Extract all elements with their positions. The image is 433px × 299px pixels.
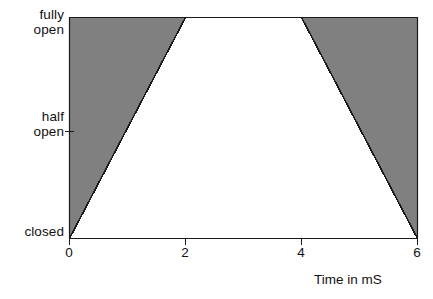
y-label-half-open: half open bbox=[0, 110, 64, 139]
x-tick-label-4: 4 bbox=[290, 246, 312, 260]
y-label-fully-open-line2: open bbox=[0, 23, 64, 38]
x-tick-label-0: 0 bbox=[58, 246, 80, 260]
x-tick-label-2: 2 bbox=[174, 246, 196, 260]
valve-timing-figure: fully open half open closed 0 2 4 6 Time… bbox=[0, 0, 433, 299]
y-label-half-open-line1: half bbox=[0, 110, 64, 125]
y-label-fully-open-line1: fully bbox=[0, 8, 64, 23]
screenshot-root: fully open half open closed 0 2 4 6 Time… bbox=[0, 0, 433, 299]
y-label-closed-line1: closed bbox=[0, 225, 64, 240]
x-tick-label-6: 6 bbox=[406, 246, 428, 260]
y-label-fully-open: fully open bbox=[0, 8, 64, 37]
y-label-half-open-line2: open bbox=[0, 125, 64, 140]
x-axis-title: Time in mS bbox=[314, 272, 382, 287]
y-label-closed: closed bbox=[0, 225, 64, 240]
